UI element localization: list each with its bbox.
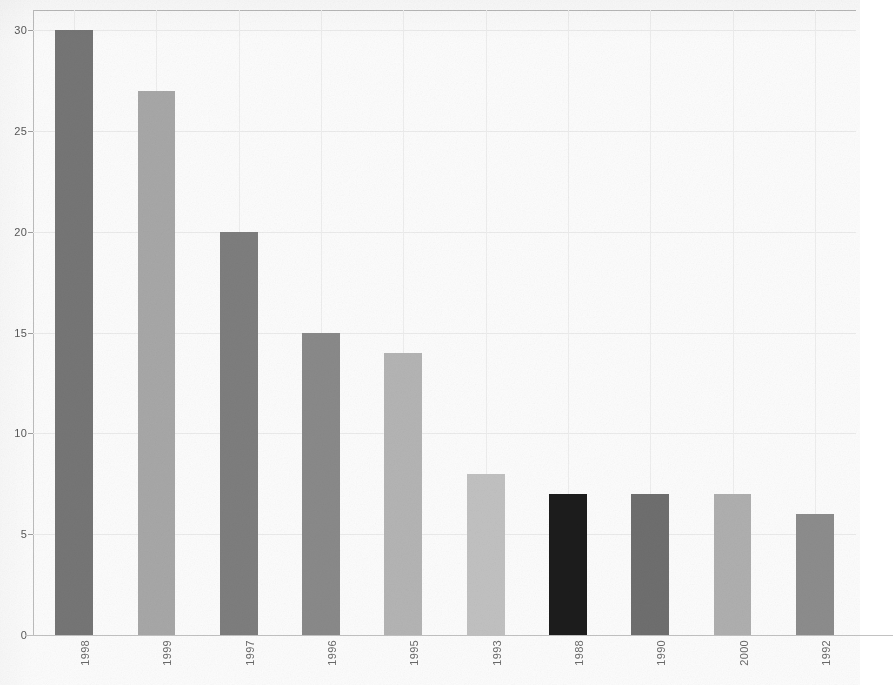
x-axis-tick-labels: 1998199919971996199519931988199020001992 [33,636,856,685]
x-axis-tick-label: 1993 [491,640,503,666]
plot-area: 051015202530 [33,10,856,635]
bar [138,91,176,635]
bar [55,30,93,635]
x-axis-tick-label: 1992 [820,640,832,666]
x-axis-tick-label: 1999 [161,640,173,666]
bar [384,353,422,635]
x-axis-tick-label: 1990 [655,640,667,666]
bar [631,494,669,635]
x-axis-tick-label: 1988 [573,640,585,666]
x-axis-tick-label: 1995 [408,640,420,666]
x-axis-tick-label: 1998 [79,640,91,666]
x-axis-tick-label: 2000 [738,640,750,666]
y-axis-tick-label: 5 [21,528,27,540]
y-axis-tick-label: 20 [14,226,27,238]
y-axis-tick-label: 25 [14,125,27,137]
bar [796,514,834,635]
y-axis-tick-label: 15 [14,327,27,339]
bar [220,232,258,635]
bar [549,494,587,635]
x-axis-tick-label: 1997 [244,640,256,666]
bar [714,494,752,635]
y-axis-tick-label: 30 [14,24,27,36]
bar-series [33,10,856,635]
bar [467,474,505,635]
y-axis-tick-label: 10 [14,427,27,439]
x-axis-tick-label: 1996 [326,640,338,666]
bar [302,333,340,635]
